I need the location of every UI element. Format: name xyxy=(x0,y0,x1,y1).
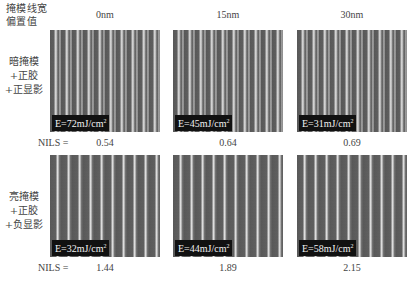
dose-label: E=31mJ/cm2 xyxy=(299,115,356,131)
mask-bias-label-line2: 偏置值 xyxy=(6,15,47,28)
row-label-line: +负显影 xyxy=(4,218,44,232)
nils-value: 0.64 xyxy=(173,137,283,148)
sem-image-dark-30nm: E=31mJ/cm2 xyxy=(297,30,407,132)
column-header-30nm: 30nm xyxy=(297,9,407,20)
row-label-line: 亮掩模 xyxy=(4,190,44,204)
nils-value: 2.15 xyxy=(297,262,407,273)
row-label-line: +正胶 xyxy=(4,69,44,83)
nils-value: 0.54 xyxy=(50,137,160,148)
sem-image-dark-0nm: E=72mJ/cm2 xyxy=(50,30,160,132)
dose-label: E=32mJ/cm2 xyxy=(52,240,109,256)
row-label-line: 暗掩模 xyxy=(4,55,44,69)
nils-value: 1.89 xyxy=(173,262,283,273)
nils-value: 0.69 xyxy=(297,137,407,148)
row-label-dark-mask: 暗掩模 +正胶 +正显影 xyxy=(4,55,44,97)
row-label-bright-mask: 亮掩模 +正胶 +负显影 xyxy=(4,190,44,232)
nils-value: 1.44 xyxy=(50,262,160,273)
dose-label: E=58mJ/cm2 xyxy=(299,240,356,256)
column-header-0nm: 0nm xyxy=(50,9,160,20)
mask-bias-label: 掩模线宽 偏置值 xyxy=(6,2,47,28)
mask-bias-label-line1: 掩模线宽 xyxy=(6,2,47,15)
dose-label: E=72mJ/cm2 xyxy=(52,115,109,131)
sem-image-dark-15nm: E=45mJ/cm2 xyxy=(173,30,283,132)
row-label-line: +正显影 xyxy=(4,83,44,97)
row-label-line: +正胶 xyxy=(4,204,44,218)
column-header-15nm: 15nm xyxy=(173,9,283,20)
dose-label: E=44mJ/cm2 xyxy=(175,240,232,256)
sem-image-bright-0nm: E=32mJ/cm2 xyxy=(50,155,160,257)
sem-image-bright-30nm: E=58mJ/cm2 xyxy=(297,155,407,257)
dose-label: E=45mJ/cm2 xyxy=(175,115,232,131)
sem-image-bright-15nm: E=44mJ/cm2 xyxy=(173,155,283,257)
